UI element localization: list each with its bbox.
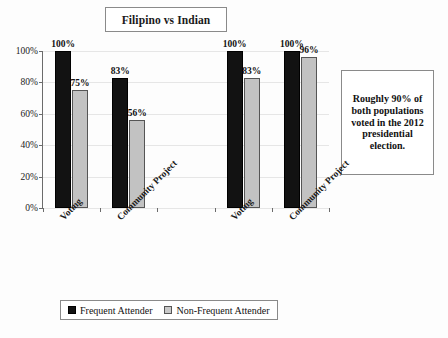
x-axis-tick-mark (215, 208, 216, 212)
y-axis-tick-label: 80% (4, 77, 38, 87)
page-title: Filipino vs Indian (122, 14, 211, 26)
bar-non-frequent (244, 78, 260, 208)
bar-frequent (55, 51, 71, 208)
legend-label: Frequent Attender (80, 305, 152, 316)
y-axis-tick-label: 40% (4, 140, 38, 150)
gridline (43, 208, 329, 209)
chart-page: Filipino vs Indian 100%80%60%40%20%0% 10… (0, 0, 448, 338)
bar-value-label: 100% (51, 39, 75, 49)
x-axis-tick-mark (157, 208, 158, 212)
plot-area: 100%75%83%56%100%83%100%96% (43, 51, 329, 208)
x-axis-tick-mark (272, 208, 273, 212)
y-axis-tick-mark (39, 114, 43, 115)
legend-swatch-icon (164, 306, 172, 314)
bar-frequent (227, 51, 243, 208)
y-axis-tick-mark (39, 51, 43, 52)
legend-label: Non-Frequent Attender (176, 305, 269, 316)
bar-frequent (284, 51, 300, 208)
bar-frequent (112, 78, 128, 208)
bar-value-label: 83% (242, 66, 261, 76)
bar-value-label: 83% (111, 66, 130, 76)
bar-non-frequent (301, 57, 317, 208)
y-axis-tick-label: 20% (4, 172, 38, 182)
y-axis-tick-mark (39, 82, 43, 83)
x-axis-tick-mark (329, 208, 330, 212)
y-axis-labels: 100%80%60%40%20%0% (0, 51, 38, 208)
x-axis-tick-mark (43, 208, 44, 212)
bar-value-label: 100% (223, 39, 247, 49)
legend-entry: Non-Frequent Attender (164, 305, 269, 316)
y-axis-tick-label: 60% (4, 109, 38, 119)
annotation-text: Roughly 90% of both populations voted in… (345, 93, 430, 152)
bar-value-label: 75% (71, 78, 90, 88)
bar-non-frequent (72, 90, 88, 208)
chart-title-box: Filipino vs Indian (105, 7, 227, 32)
legend-entry: Frequent Attender (68, 305, 152, 316)
legend-swatch-icon (68, 306, 76, 314)
annotation-callout: Roughly 90% of both populations voted in… (341, 70, 434, 175)
chart-legend: Frequent AttenderNon-Frequent Attender (60, 300, 278, 320)
bar-value-label: 56% (128, 108, 147, 118)
y-axis-tick-mark (39, 177, 43, 178)
y-axis-tick-mark (39, 145, 43, 146)
bar-value-label: 96% (299, 45, 318, 55)
y-axis-tick-label: 100% (4, 46, 38, 56)
y-axis-tick-label: 0% (4, 203, 38, 213)
x-axis-tick-mark (100, 208, 101, 212)
